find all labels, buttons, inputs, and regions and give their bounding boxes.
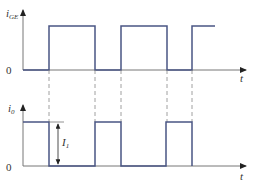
waveform-diagram: iGE 0 t i0 0 t I1 [0,0,253,189]
top-axes [23,10,246,70]
top-ylabel: iGE [6,7,19,21]
amplitude-label: I1 [61,136,69,150]
dashed-guides [49,70,192,122]
top-zero-label: 0 [6,64,12,76]
bottom-waveform [23,122,192,166]
bottom-xlabel: t [240,170,244,182]
bottom-ylabel: i0 [8,102,15,116]
top-xlabel: t [240,72,244,84]
bottom-axes [23,105,246,166]
top-waveform [23,26,215,70]
diagram-canvas: iGE 0 t i0 0 t I1 [0,0,253,189]
bottom-zero-label: 0 [6,161,12,173]
